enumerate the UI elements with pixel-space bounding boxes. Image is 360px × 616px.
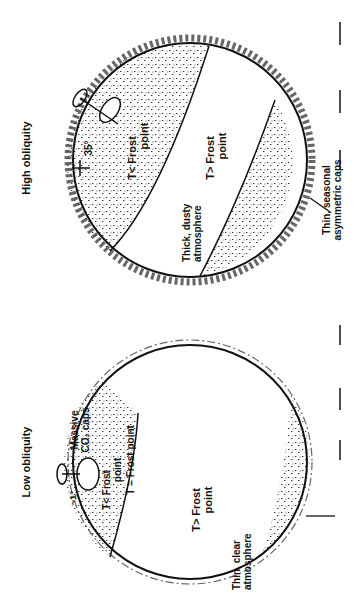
tilt-label-high: 35° [83, 140, 94, 155]
cold-label-low: T< Frost [101, 469, 112, 509]
low-obliquity-panel: Low obliquity ~1° Massive CO₂ caps T< Fr… [20, 325, 340, 590]
cold-label-high: T< Frost [126, 136, 138, 180]
cold-label-low-2: point [112, 457, 123, 482]
polar-cap-low [77, 458, 99, 490]
atmosphere-label-low-2: atmosphere [242, 533, 253, 590]
caps-label-low-2: CO₂ caps [80, 407, 91, 452]
boundary-label-low: T = Frost point [125, 424, 136, 494]
obliquity-diagram: High obliquity 35° T< Frost point T> Fro… [0, 0, 360, 616]
warm-label-high: T> Frost [204, 136, 216, 180]
warm-label-high-2: point [216, 132, 228, 159]
atmosphere-label-high-2: atmosphere [192, 205, 203, 262]
caps-label-low: Massive [69, 410, 80, 449]
high-obliquity-panel: High obliquity 35° T< Frost point T> Fro… [20, 22, 343, 282]
warm-label-low: T> Frost [190, 488, 202, 532]
tilt-label-low: ~1° [68, 491, 78, 505]
caps-label-high-2: asymmetric caps [332, 159, 343, 241]
atmosphere-label-low: Thin, clear [231, 540, 242, 590]
low-obliquity-title: Low obliquity [20, 426, 32, 498]
warm-label-low-2: point [202, 486, 214, 513]
caps-label-high: Thin, seasonal [321, 165, 332, 235]
high-obliquity-title: High obliquity [20, 120, 32, 194]
cold-label-high-2: point [138, 122, 150, 149]
atmosphere-label-high: Thick, dusty [181, 203, 192, 262]
